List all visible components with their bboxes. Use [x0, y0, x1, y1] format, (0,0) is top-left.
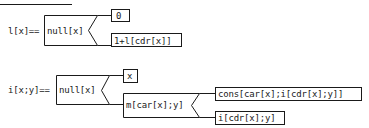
diagram-canvas: l[x]== null[x] 0 1+l[cdr[x]] i[x;y]== nu…: [0, 0, 369, 128]
definition-label: i[x;y]==: [8, 85, 50, 95]
condition-label: null[x]: [47, 26, 84, 36]
branch-label: i[cdr[x];y]: [218, 113, 275, 123]
branch-label: cons[car[x];i[cdr[x];y]]: [218, 89, 343, 99]
diagram-lines: [0, 0, 369, 128]
condition-label: m[car[x];y]: [126, 100, 183, 110]
condition-label: null[x]: [59, 85, 96, 95]
branch-label: x: [127, 71, 132, 81]
branch-label: 0: [116, 11, 121, 21]
branch-label: 1+l[cdr[x]]: [114, 36, 171, 46]
definition-label: l[x]==: [8, 26, 39, 36]
